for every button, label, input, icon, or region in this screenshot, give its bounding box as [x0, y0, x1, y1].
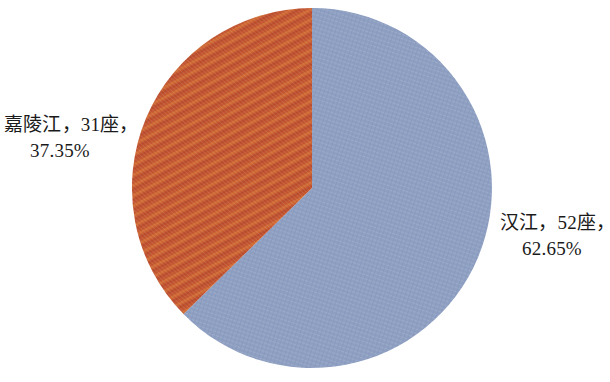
pie-label-jialingjiang-line-1: 嘉陵江，31座，: [2, 112, 130, 138]
pie-label-jialingjiang-percent: 37.35%: [2, 138, 130, 164]
pie-slices: [132, 8, 492, 368]
pie-label-jialingjiang: 嘉陵江，31座， 37.35%: [2, 112, 130, 164]
pie-label-hanjiang-line-1: 汉江，52座，: [500, 210, 608, 236]
pie-svg: [0, 0, 610, 382]
pie-chart-figure: 嘉陵江，31座， 37.35% 汉江，52座， 62.65%: [0, 0, 610, 382]
pie-label-hanjiang: 汉江，52座， 62.65%: [500, 210, 608, 262]
pie-label-hanjiang-percent: 62.65%: [500, 236, 608, 262]
pie-chart-graphic: [0, 0, 610, 382]
